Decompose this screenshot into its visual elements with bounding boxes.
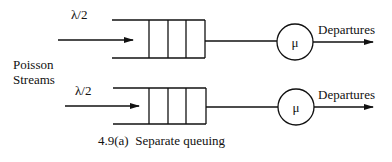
arrival-rate-label-2: λ/2 bbox=[75, 84, 91, 98]
source-label-line-2: Streams bbox=[13, 73, 55, 87]
server-rate-label-1: μ bbox=[285, 36, 305, 50]
arrival-rate-label-1: λ/2 bbox=[71, 8, 87, 22]
server-rate-label-2: μ bbox=[286, 101, 306, 115]
figure-caption: 4.9(a) Separate queuing bbox=[98, 134, 225, 148]
source-label-line-1: Poisson bbox=[13, 58, 53, 72]
departures-label-1: Departures bbox=[318, 23, 375, 37]
departures-label-2: Departures bbox=[318, 88, 375, 102]
